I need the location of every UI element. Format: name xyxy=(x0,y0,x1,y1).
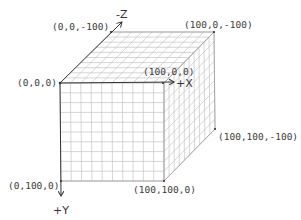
back-right-bottom-label: (100,100,-100) xyxy=(218,131,298,142)
front-right-top-label: (100,0,0) xyxy=(143,66,194,77)
cube-diagram: -Z +X +Y (0,0,0) (0,0,-100) (100,0,-100)… xyxy=(0,0,301,220)
back-right-top-label: (100,0,-100) xyxy=(184,19,253,30)
x-axis-label: +X xyxy=(176,77,193,90)
back-left-top-label: (0,0,-100) xyxy=(52,21,109,32)
cube-edges xyxy=(61,32,215,181)
y-axis-label: +Y xyxy=(53,204,69,217)
origin-label: (0,0,0) xyxy=(17,77,57,88)
front-right-bottom-label: (100,100,0) xyxy=(133,184,196,195)
z-axis-label: -Z xyxy=(116,8,128,21)
front-face-grid xyxy=(60,83,164,181)
y-axis-arrow xyxy=(60,83,61,196)
front-left-bottom-label: (0,100,0) xyxy=(8,180,59,191)
